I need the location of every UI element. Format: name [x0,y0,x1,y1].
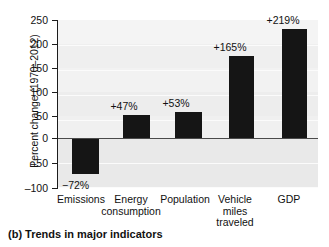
zero-line [58,138,318,139]
value-label-energy-consumption: +47% [98,100,150,112]
y-tick-label-200: 200 [30,38,48,50]
gridline [58,70,318,71]
y-tick-label-neg100: –100 [25,182,48,194]
y-tick-label-250: 250 [30,14,48,26]
y-tick-mark [52,116,58,117]
y-tick-label-0: 0 [42,132,48,144]
value-label-emissions: −72% [62,179,112,191]
figure-caption: (b) Trends in major indicators [8,228,163,240]
y-tick-mark [52,92,58,93]
bar-population [175,112,202,139]
y-tick-mark [52,20,58,21]
y-tick-label-150: 150 [30,62,48,74]
x-category-label-gdp: GDP [259,194,319,206]
bar-energy-consumption [123,115,150,139]
y-tick-mark [52,138,58,139]
value-label-gdp: +219% [254,14,312,26]
value-label-vehicle-miles-traveled: +165% [201,41,259,53]
gridline [58,45,318,46]
x-category-label-vehicle-miles-traveled: Vehicle miles traveled [204,194,266,229]
y-tick-mark [52,68,58,69]
bar-vehicle-miles-traveled [229,56,254,139]
y-tick-mark [52,44,58,45]
y-tick-label-neg50: –50 [30,157,48,169]
plot-band [58,68,318,92]
y-tick-mark [52,163,58,164]
y-tick-mark [52,188,58,189]
gridline [58,95,318,96]
plot-band [58,44,318,68]
bar-gdp [282,29,307,139]
y-tick-label-100: 100 [30,86,48,98]
figure-trends-in-major-indicators: Percent change (1970–2012) 250 200 150 1… [0,0,329,247]
y-tick-label-50: 50 [36,110,48,122]
bar-emissions [72,138,99,174]
value-label-population: +53% [150,97,202,109]
